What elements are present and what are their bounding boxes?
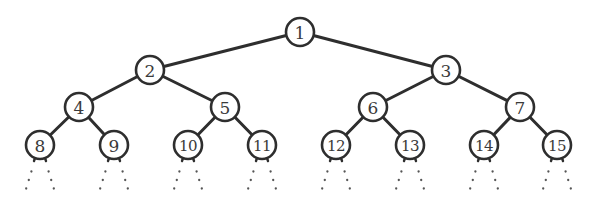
tree-node-15: 15 <box>543 131 571 159</box>
continuation-12 <box>321 158 351 190</box>
tree-node-8: 8 <box>26 131 54 159</box>
tree-node-4: 4 <box>65 93 93 121</box>
continuation-9 <box>99 158 129 190</box>
edge-1-3 <box>300 32 446 70</box>
node-label: 5 <box>220 98 231 118</box>
node-label: 1 <box>295 23 306 43</box>
tree-nodes: 123456789101112131415 <box>26 18 571 159</box>
node-label: 3 <box>441 61 452 81</box>
node-label: 10 <box>179 137 197 155</box>
tree-node-6: 6 <box>359 93 387 121</box>
node-label: 8 <box>35 136 46 156</box>
tree-node-7: 7 <box>506 93 534 121</box>
tree-edges <box>40 32 557 145</box>
node-label: 14 <box>475 137 493 155</box>
tree-node-3: 3 <box>432 56 460 84</box>
node-label: 6 <box>368 98 379 118</box>
tree-node-12: 12 <box>322 131 350 159</box>
tree-node-2: 2 <box>136 56 164 84</box>
node-label: 2 <box>145 61 156 81</box>
node-label: 7 <box>515 98 526 118</box>
node-label: 9 <box>109 136 120 156</box>
continuation-dots <box>25 158 572 190</box>
node-label: 15 <box>548 137 566 155</box>
tree-node-10: 10 <box>174 131 202 159</box>
node-label: 13 <box>401 137 419 155</box>
binary-tree-diagram: 123456789101112131415 <box>0 0 589 199</box>
continuation-10 <box>173 158 203 190</box>
tree-node-9: 9 <box>100 131 128 159</box>
edge-1-2 <box>150 32 300 70</box>
continuation-15 <box>542 158 572 190</box>
node-label: 11 <box>253 137 271 155</box>
node-label: 12 <box>327 137 345 155</box>
continuation-14 <box>469 158 499 190</box>
continuation-11 <box>247 158 277 190</box>
node-label: 4 <box>74 98 85 118</box>
continuation-8 <box>25 158 55 190</box>
tree-node-14: 14 <box>470 131 498 159</box>
tree-node-1: 1 <box>286 18 314 46</box>
tree-node-5: 5 <box>211 93 239 121</box>
tree-node-11: 11 <box>248 131 276 159</box>
continuation-13 <box>395 158 425 190</box>
tree-node-13: 13 <box>396 131 424 159</box>
